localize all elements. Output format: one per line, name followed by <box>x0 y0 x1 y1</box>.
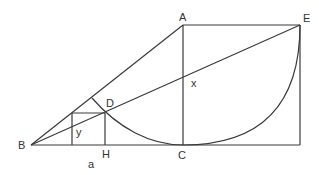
geometry-diagram: A E B C D H x y a <box>0 0 319 175</box>
segment-BE <box>31 25 300 145</box>
label-x: x <box>191 77 197 89</box>
label-D: D <box>106 97 114 109</box>
segment-BA <box>31 25 183 145</box>
label-a: a <box>88 158 95 170</box>
label-H: H <box>102 148 110 160</box>
label-A: A <box>179 11 187 23</box>
label-B: B <box>18 139 25 151</box>
label-E: E <box>303 12 310 24</box>
label-C: C <box>178 149 186 161</box>
label-y: y <box>76 126 82 138</box>
arc-EC <box>183 25 300 145</box>
